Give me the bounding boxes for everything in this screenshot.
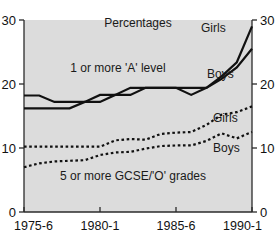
- percentages-annotation: Percentages: [104, 16, 171, 30]
- y-axis-label: 0: [260, 205, 267, 220]
- series-label-a-level-girls: Girls: [201, 21, 226, 35]
- x-axis-label: 1980-1: [81, 219, 120, 233]
- line-chart: 0102030 0102030 1975-61980-11985-61990-1…: [0, 0, 280, 239]
- x-axis-label: 1975-6: [14, 219, 53, 233]
- y-axis-label: 20: [2, 77, 16, 92]
- gcse-group-annotation: 5 or more GCSE/'O' grades: [60, 169, 206, 183]
- series-label-gcse-boys: Boys: [213, 141, 240, 155]
- y-axis-label: 10: [2, 141, 16, 156]
- series-label-a-level-boys: Boys: [207, 67, 234, 81]
- y-axis-label: 0: [9, 205, 16, 220]
- y-axis-label: 20: [260, 77, 274, 92]
- chart-container: 0102030 0102030 1975-61980-11985-61990-1…: [0, 0, 280, 239]
- x-axis-label: 1990-1: [223, 219, 262, 233]
- y-axis-label: 30: [260, 13, 274, 28]
- y-axis-label: 10: [260, 141, 274, 156]
- a-level-group-annotation: 1 or more 'A' level: [70, 61, 165, 75]
- series-label-gcse-girls: Girls: [213, 111, 238, 125]
- y-axis-label: 30: [2, 13, 16, 28]
- x-axis-label: 1985-6: [157, 219, 196, 233]
